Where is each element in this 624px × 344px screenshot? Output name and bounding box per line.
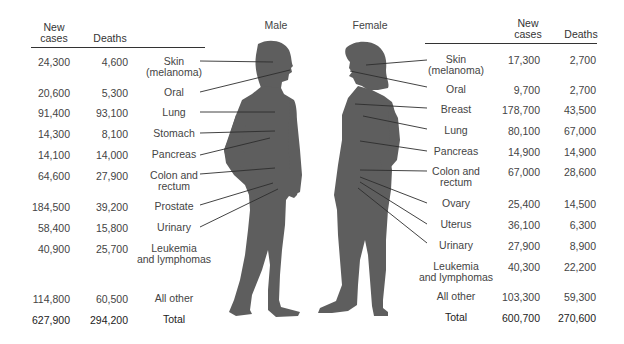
male-figure-title: Male [258, 20, 294, 31]
site-line: and lymphomas [414, 272, 498, 283]
female-site-ovary: Ovary [424, 198, 488, 209]
site-line: rectum [424, 177, 488, 188]
male-deaths: 14,000 [88, 149, 128, 161]
female-new-cases: 9,700 [498, 84, 540, 96]
female-total-label: Total [424, 312, 488, 323]
male-site-prostate: Prostate [144, 201, 204, 212]
female-deaths: 2,700 [554, 54, 596, 66]
male-site-lung: Lung [144, 107, 204, 118]
male-site-urinary: Urinary [144, 222, 204, 233]
male-site-skin: Skin (melanoma) [144, 56, 204, 78]
female-header-deaths: Deaths [558, 29, 604, 40]
male-total-new-cases: 627,900 [30, 314, 70, 326]
female-header-new-cases: New cases [508, 18, 548, 40]
male-deaths: 25,700 [88, 243, 128, 255]
female-deaths: 43,500 [554, 104, 596, 116]
female-site-leukemia-lymphomas: Leukemia and lymphomas [414, 261, 498, 283]
site-line: (melanoma) [144, 67, 204, 78]
female-header-rule [425, 43, 597, 44]
female-site-urinary: Urinary [424, 240, 488, 251]
female-new-cases: 103,300 [498, 291, 540, 303]
male-site-stomach: Stomach [144, 128, 204, 139]
male-new-cases: 58,400 [30, 222, 70, 234]
male-new-cases: 40,900 [30, 243, 70, 255]
male-new-cases: 91,400 [30, 107, 70, 119]
female-total-new-cases: 600,700 [498, 312, 540, 324]
header-line: cases [508, 29, 548, 40]
site-line: and lymphomas [134, 254, 214, 265]
male-total-label: Total [144, 314, 204, 325]
female-deaths: 6,300 [554, 219, 596, 231]
male-deaths: 39,200 [88, 201, 128, 213]
female-new-cases: 17,300 [498, 54, 540, 66]
male-new-cases: 184,500 [30, 201, 70, 213]
male-site-pancreas: Pancreas [144, 149, 204, 160]
female-site-all-other: All other [424, 291, 488, 302]
male-silhouette [224, 41, 302, 317]
female-new-cases: 67,000 [498, 166, 540, 178]
female-deaths: 59,300 [554, 291, 596, 303]
male-deaths: 4,600 [88, 56, 128, 68]
male-new-cases: 20,600 [30, 87, 70, 99]
male-new-cases: 14,300 [30, 128, 70, 140]
female-new-cases: 14,900 [498, 146, 540, 158]
female-deaths: 2,700 [554, 84, 596, 96]
male-site-all-other: All other [144, 293, 204, 304]
female-site-lung: Lung [424, 125, 488, 136]
male-new-cases: 114,800 [30, 293, 70, 305]
male-header-new-cases: New cases [34, 22, 74, 44]
female-deaths: 28,600 [554, 166, 596, 178]
site-line: (melanoma) [424, 65, 488, 76]
female-new-cases: 40,300 [498, 261, 540, 273]
female-new-cases: 25,400 [498, 198, 540, 210]
female-site-colon-rectum: Colon and rectum [424, 166, 488, 188]
female-silhouette [318, 42, 400, 316]
female-deaths: 14,500 [554, 198, 596, 210]
male-deaths: 27,900 [88, 170, 128, 182]
male-new-cases: 64,600 [30, 170, 70, 182]
female-new-cases: 36,100 [498, 219, 540, 231]
female-site-skin: Skin (melanoma) [424, 54, 488, 76]
male-header-rule [31, 47, 205, 48]
female-figure-title: Female [348, 20, 392, 31]
male-total-deaths: 294,200 [88, 314, 128, 326]
female-new-cases: 27,900 [498, 240, 540, 252]
male-deaths: 5,300 [88, 87, 128, 99]
site-line: rectum [144, 181, 204, 192]
female-site-pancreas: Pancreas [424, 146, 488, 157]
male-new-cases: 14,100 [30, 149, 70, 161]
female-deaths: 22,200 [554, 261, 596, 273]
female-deaths: 8,900 [554, 240, 596, 252]
male-new-cases: 24,300 [30, 56, 70, 68]
female-deaths: 14,900 [554, 146, 596, 158]
header-line: cases [34, 33, 74, 44]
male-deaths: 93,100 [88, 107, 128, 119]
male-header-deaths: Deaths [88, 33, 132, 44]
female-site-uterus: Uterus [424, 219, 488, 230]
female-site-oral: Oral [424, 84, 488, 95]
female-new-cases: 80,100 [498, 125, 540, 137]
female-deaths: 67,000 [554, 125, 596, 137]
male-deaths: 8,100 [88, 128, 128, 140]
male-deaths: 60,500 [88, 293, 128, 305]
male-site-leukemia-lymphomas: Leukemia and lymphomas [134, 243, 214, 265]
male-deaths: 15,800 [88, 222, 128, 234]
female-total-deaths: 270,600 [554, 312, 596, 324]
female-new-cases: 178,700 [498, 104, 540, 116]
male-site-colon-rectum: Colon and rectum [144, 170, 204, 192]
male-site-oral: Oral [144, 87, 204, 98]
female-site-breast: Breast [424, 104, 488, 115]
